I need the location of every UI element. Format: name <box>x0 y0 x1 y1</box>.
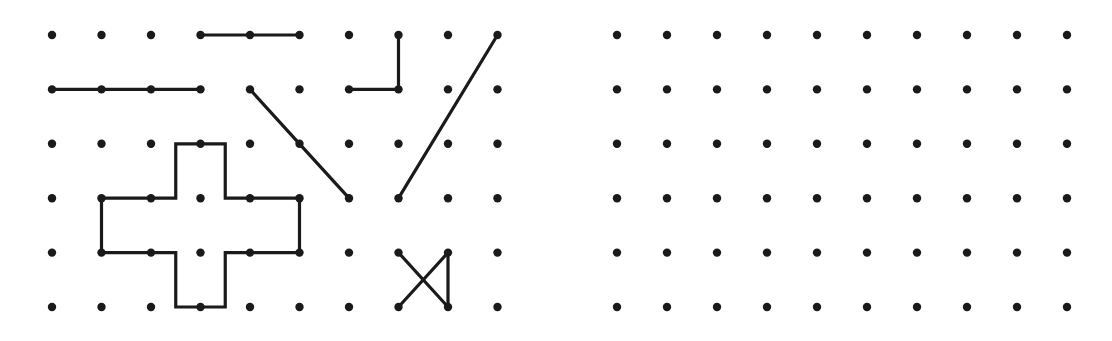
grid-dot <box>196 31 204 39</box>
grid-dot <box>48 140 56 148</box>
grid-dot <box>913 85 921 93</box>
grid-dot <box>813 140 821 148</box>
grid-dot <box>345 194 353 202</box>
grid-dot <box>663 140 671 148</box>
grid-dot <box>613 248 621 256</box>
grid-dot <box>963 194 971 202</box>
grid-dot <box>1013 194 1021 202</box>
grid-dot <box>147 303 155 311</box>
grid-dot <box>444 85 452 93</box>
grid-dot <box>444 140 452 148</box>
grid-dot <box>713 31 721 39</box>
grid-dot <box>813 194 821 202</box>
grid-dot <box>493 248 501 256</box>
plus-cross-polygon <box>102 144 300 307</box>
grid-dot <box>663 303 671 311</box>
grid-dot <box>1013 31 1021 39</box>
grid-dot <box>295 248 303 256</box>
grid-dot <box>493 31 501 39</box>
grid-dot <box>295 303 303 311</box>
grid-dot <box>97 85 105 93</box>
grid-dot <box>1013 140 1021 148</box>
worksheet-canvas <box>0 0 1112 341</box>
grid-dot <box>863 248 871 256</box>
grid-dot <box>196 248 204 256</box>
blank-response-panel-dots <box>613 31 1071 311</box>
grid-dot <box>963 85 971 93</box>
grid-dot <box>97 248 105 256</box>
grid-dot <box>1063 85 1071 93</box>
grid-dot <box>97 31 105 39</box>
grid-dot <box>613 31 621 39</box>
grid-dot <box>613 194 621 202</box>
grid-dot <box>493 85 501 93</box>
grid-dot <box>48 31 56 39</box>
grid-dot <box>863 31 871 39</box>
grid-dot <box>963 31 971 39</box>
grid-dot <box>196 303 204 311</box>
grid-dot <box>295 194 303 202</box>
grid-dot <box>713 85 721 93</box>
bowtie-triangle-pair <box>399 253 449 307</box>
grid-dot <box>863 303 871 311</box>
grid-dot <box>394 140 402 148</box>
grid-dot <box>713 303 721 311</box>
grid-dot <box>444 303 452 311</box>
grid-dot <box>345 140 353 148</box>
grid-dot <box>913 31 921 39</box>
grid-dot <box>613 85 621 93</box>
grid-dot <box>1063 248 1071 256</box>
grid-dot <box>97 194 105 202</box>
grid-dot <box>813 85 821 93</box>
grid-dot <box>295 31 303 39</box>
grid-dot <box>1063 31 1071 39</box>
grid-dot <box>444 194 452 202</box>
grid-dot <box>763 303 771 311</box>
grid-dot <box>493 303 501 311</box>
grid-dot <box>713 194 721 202</box>
grid-dot <box>1013 248 1021 256</box>
grid-dot <box>613 303 621 311</box>
grid-dot <box>147 194 155 202</box>
sample-figures-panel-figures <box>52 35 498 307</box>
grid-dot <box>246 248 254 256</box>
grid-dot <box>196 194 204 202</box>
grid-dot <box>48 85 56 93</box>
grid-dot <box>813 303 821 311</box>
grid-dot <box>913 194 921 202</box>
grid-dot <box>763 194 771 202</box>
grid-dot <box>295 140 303 148</box>
grid-dot <box>147 31 155 39</box>
grid-dot <box>763 31 771 39</box>
grid-dot <box>863 85 871 93</box>
grid-dot <box>493 140 501 148</box>
grid-dot <box>48 248 56 256</box>
grid-dot <box>963 248 971 256</box>
grid-dot <box>863 194 871 202</box>
grid-dot <box>394 248 402 256</box>
grid-dot <box>763 85 771 93</box>
grid-dot <box>1063 303 1071 311</box>
grid-dot <box>147 248 155 256</box>
grid-dot <box>444 248 452 256</box>
grid-dot <box>763 248 771 256</box>
grid-dot <box>913 140 921 148</box>
grid-dot <box>713 248 721 256</box>
grid-dot <box>963 303 971 311</box>
grid-dot <box>663 85 671 93</box>
grid-dot <box>763 140 771 148</box>
ascending-diagonal <box>399 35 498 198</box>
grid-dot <box>246 140 254 148</box>
grid-dot <box>1063 194 1071 202</box>
grid-dot <box>246 303 254 311</box>
grid-dot <box>97 140 105 148</box>
grid-dot <box>493 194 501 202</box>
grid-dot <box>913 303 921 311</box>
grid-dot <box>394 31 402 39</box>
sample-figures-panel <box>48 31 502 311</box>
grid-dot <box>444 31 452 39</box>
grid-dot <box>394 85 402 93</box>
blank-response-panel <box>613 31 1071 311</box>
grid-dot <box>863 140 871 148</box>
grid-dot <box>345 31 353 39</box>
